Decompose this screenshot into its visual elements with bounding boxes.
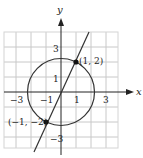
x-tick-neg1: −1	[40, 95, 53, 105]
y-tick-1: 1	[53, 74, 59, 84]
x-tick-3: 3	[103, 95, 109, 105]
graph-figure: y x −3 −1 1 3 3 1 −3 (1, 2) (−1, −2)	[0, 0, 143, 158]
x-axis-label: x	[136, 86, 142, 97]
point-1-2	[73, 59, 78, 64]
point-label-neg1-neg2: (−1, −2)	[8, 117, 47, 127]
x-axis	[4, 89, 134, 95]
x-tick-1: 1	[74, 95, 80, 105]
y-tick-neg3: −3	[50, 134, 64, 144]
y-arrow-icon	[58, 18, 64, 26]
point-label-1-2: (1, 2)	[79, 56, 103, 66]
x-tick-neg3: −3	[10, 95, 24, 105]
y-tick-3: 3	[53, 44, 59, 54]
x-arrow-icon	[126, 89, 134, 95]
y-axis-label: y	[56, 4, 63, 15]
